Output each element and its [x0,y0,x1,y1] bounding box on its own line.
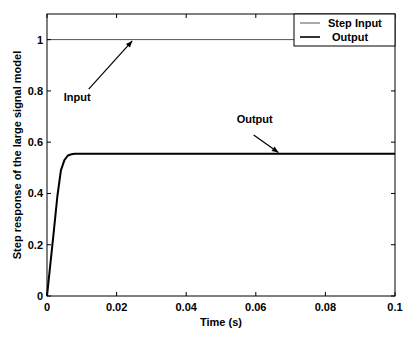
axis-ticks: 00.020.040.060.080.100.20.40.60.81 [28,14,403,313]
y-tick-label: 0.8 [28,85,43,97]
y-tick-label: 0 [37,290,43,302]
annotation-input: Input [64,91,91,103]
y-tick-label: 0.2 [28,239,43,251]
x-tick-label: 0.02 [106,301,127,313]
x-tick-label: 0.08 [315,301,336,313]
x-tick-label: 0.1 [387,301,402,313]
x-tick-label: 0.04 [175,301,197,313]
y-axis-label: Step response of the large signal model [11,51,23,259]
arrowhead-icon [272,146,279,152]
annotation-output: Output [237,113,273,125]
annotations: InputOutput [64,41,279,153]
x-axis-label: Time (s) [200,316,242,328]
x-tick-label: 0.06 [245,301,266,313]
annotation-arrow [89,41,133,89]
y-tick-label: 0.6 [28,136,43,148]
legend: Step Input Output [294,14,395,46]
legend-label-step-input: Step Input [328,17,382,29]
legend-label-output: Output [332,31,368,43]
plot-frame [47,14,395,296]
y-tick-label: 1 [37,34,43,46]
y-tick-label: 0.4 [28,187,44,199]
step-response-chart: 00.020.040.060.080.100.20.40.60.81 Input… [0,0,415,341]
series-line-output [47,154,395,296]
x-tick-label: 0 [44,301,50,313]
